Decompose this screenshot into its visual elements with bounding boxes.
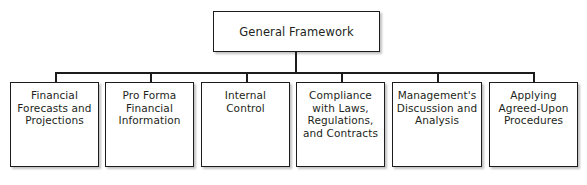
node-financial-forecasts-and-projections[interactable]: Financial Forecasts and Projections [10, 82, 99, 167]
connector-drop-1 [55, 72, 57, 82]
node-label-financial-forecasts-and-projections: Financial Forecasts and Projections [11, 83, 98, 127]
node-managements-discussion-and-analysis[interactable]: Management's Discussion and Analysis [392, 82, 482, 167]
node-general-framework[interactable]: General Framework [213, 11, 380, 52]
node-label-applying-agreed-upon-procedures: Applying Agreed-Upon Procedures [490, 83, 577, 127]
node-label-compliance-with-laws-regulations-and-contracts: Compliance with Laws, Regulations, and C… [297, 83, 384, 139]
connector-drop-5 [437, 72, 439, 82]
node-applying-agreed-upon-procedures[interactable]: Applying Agreed-Upon Procedures [489, 82, 578, 167]
node-label-managements-discussion-and-analysis: Management's Discussion and Analysis [393, 83, 481, 127]
connector-drop-2 [150, 72, 152, 82]
node-label-general-framework: General Framework [239, 25, 353, 39]
node-internal-control[interactable]: Internal Control [201, 82, 290, 167]
connector-root-trunk [295, 52, 297, 73]
connector-drop-3 [246, 72, 248, 82]
connector-drop-6 [533, 72, 535, 82]
node-label-pro-forma-financial-information: Pro Forma Financial Information [106, 83, 193, 127]
node-compliance-with-laws-regulations-and-contracts[interactable]: Compliance with Laws, Regulations, and C… [296, 82, 385, 167]
org-chart-diagram: General Framework Financial Forecasts an… [0, 0, 587, 185]
connector-horizontal-bus [55, 72, 534, 74]
node-label-internal-control: Internal Control [202, 83, 289, 114]
node-pro-forma-financial-information[interactable]: Pro Forma Financial Information [105, 82, 194, 167]
connector-drop-4 [341, 72, 343, 82]
